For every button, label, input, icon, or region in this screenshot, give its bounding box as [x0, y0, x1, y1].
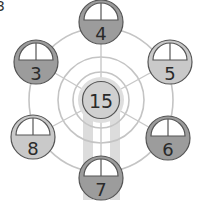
gondola-value: 5 — [164, 63, 175, 84]
gondola-value: 8 — [27, 138, 38, 159]
gondola-value: 6 — [162, 139, 173, 160]
corner-label: 3 — [0, 0, 5, 14]
gondola-value: 7 — [95, 179, 106, 200]
gondola-upper-right: 5 — [148, 40, 192, 84]
gondola-bottom: 7 — [79, 156, 123, 200]
ferris-wheel-diagram: 3 15 — [0, 0, 202, 217]
hub: 15 — [78, 77, 124, 123]
gondola-lower-left: 8 — [11, 115, 55, 159]
hub-value: 15 — [89, 90, 113, 112]
ferris-wheel-svg: 15 4 5 6 7 — [0, 0, 202, 217]
gondola-top: 4 — [79, 0, 123, 44]
gondola-lower-right: 6 — [146, 116, 190, 160]
gondola-value: 3 — [30, 63, 41, 84]
gondola-upper-left: 3 — [14, 40, 58, 84]
gondola-value: 4 — [95, 23, 106, 44]
